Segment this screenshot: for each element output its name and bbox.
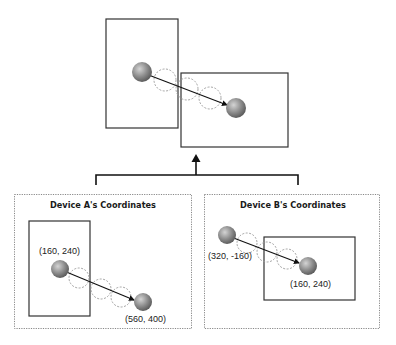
motion-arrow [64, 271, 134, 300]
panel-title: Device A's Coordinates [50, 200, 156, 210]
ball-start-icon [218, 226, 236, 244]
panel-border [205, 195, 380, 329]
start-coordinate-label: (320, -160) [208, 251, 252, 261]
ball-start-icon [132, 62, 152, 82]
ball-end-icon [134, 293, 152, 311]
start-coordinate-label: (160, 240) [39, 246, 80, 256]
end-coordinate-label: (160, 240) [290, 279, 331, 289]
combined-view [106, 19, 288, 147]
end-coordinate-label: (560, 400) [125, 314, 166, 324]
ball-end-icon [226, 98, 246, 118]
trail-circles [154, 69, 221, 109]
ball-start-icon [51, 260, 69, 278]
trail-circles [69, 268, 131, 307]
up-arrow-icon [192, 154, 201, 162]
panel-device-a: Device A's Coordinates (160, 240) (560, … [15, 195, 192, 329]
panel-device-b: Device B's Coordinates (320, -160) (160,… [205, 195, 380, 329]
ball-end-icon [299, 257, 317, 275]
merge-connector [96, 154, 298, 185]
panel-title: Device B's Coordinates [240, 200, 346, 210]
device-coordinates-diagram: Device A's Coordinates (160, 240) (560, … [0, 0, 396, 345]
panel-border [15, 195, 192, 329]
